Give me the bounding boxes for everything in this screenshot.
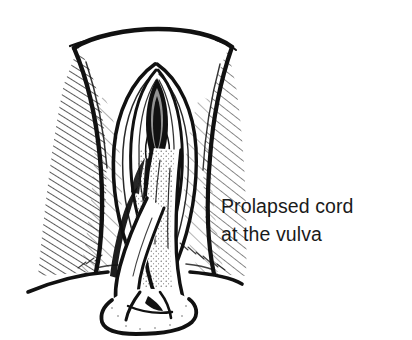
caption-line-1: Prolapsed cord <box>221 192 401 220</box>
prolapsed-cord-illustration <box>0 0 412 340</box>
mons-pubis-arch <box>70 29 236 50</box>
caption-line-2: at the vulva <box>221 220 401 248</box>
figure-root: Prolapsed cord at the vulva <box>0 0 412 340</box>
caption-block: Prolapsed cord at the vulva <box>221 192 401 248</box>
